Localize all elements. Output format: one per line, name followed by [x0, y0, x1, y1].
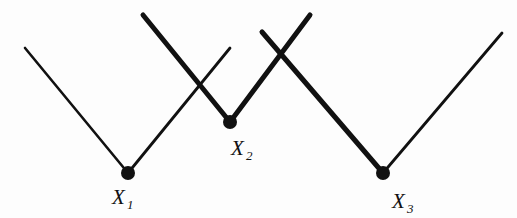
- node-marker-x2: [223, 115, 237, 129]
- figure-background: [0, 0, 517, 218]
- node-label-x2: X: [230, 136, 245, 160]
- node-label-x1: X: [111, 185, 126, 209]
- node-marker-x3: [376, 166, 390, 180]
- node-label-x3: X: [391, 189, 406, 213]
- node-label-subscript-x2: 2: [246, 148, 253, 163]
- node-label-subscript-x3: 3: [406, 201, 414, 216]
- figure-container: X1X2X3: [0, 0, 517, 218]
- node-marker-x1: [121, 166, 135, 180]
- node-label-subscript-x1: 1: [127, 197, 134, 212]
- lineage-diagram: X1X2X3: [0, 0, 517, 218]
